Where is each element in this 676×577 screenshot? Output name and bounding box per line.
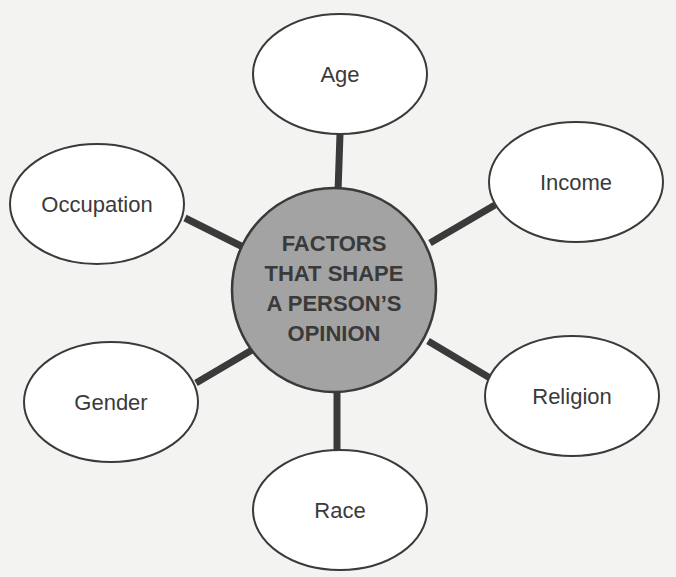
center-line-4: OPINION	[288, 321, 381, 346]
center-node: FACTORS THAT SHAPE A PERSON’S OPINION	[232, 188, 436, 392]
center-line-2: THAT SHAPE	[265, 261, 404, 286]
connector-gender	[196, 350, 252, 383]
connector-religion	[428, 341, 490, 378]
node-label: Occupation	[41, 192, 152, 217]
node-gender: Gender	[24, 342, 198, 462]
node-religion: Religion	[485, 336, 659, 456]
node-label: Gender	[74, 390, 147, 415]
node-age: Age	[253, 14, 427, 134]
node-race: Race	[253, 450, 427, 570]
connector-income	[430, 205, 495, 243]
mind-map-diagram: FACTORS THAT SHAPE A PERSON’S OPINION Ag…	[0, 0, 676, 577]
node-occupation: Occupation	[10, 144, 184, 264]
node-label: Religion	[532, 384, 612, 409]
node-label: Income	[540, 170, 612, 195]
connector-age	[338, 134, 340, 192]
center-line-3: A PERSON’S	[267, 291, 402, 316]
connector-occupation	[185, 218, 245, 248]
node-label: Age	[320, 62, 359, 87]
node-income: Income	[489, 122, 663, 242]
center-line-1: FACTORS	[282, 231, 387, 256]
node-label: Race	[314, 498, 365, 523]
